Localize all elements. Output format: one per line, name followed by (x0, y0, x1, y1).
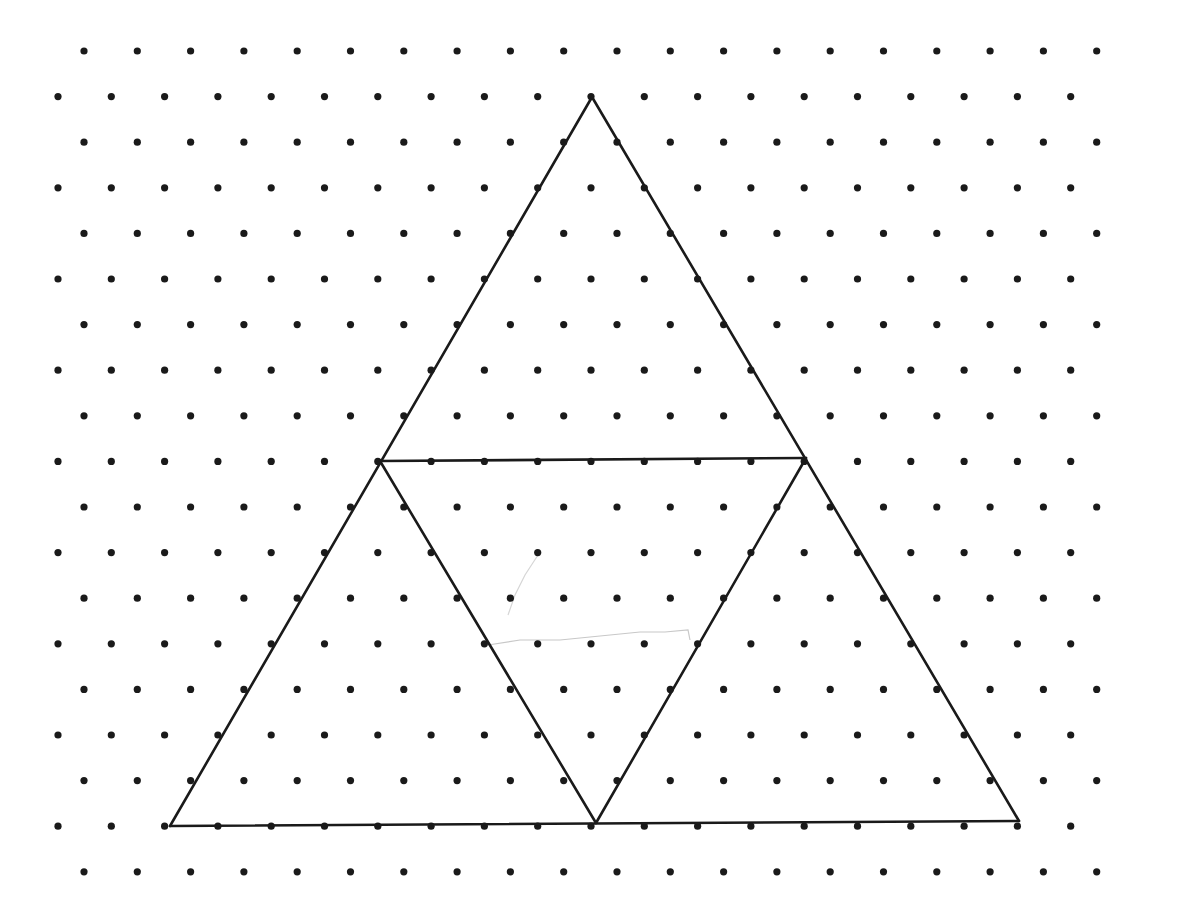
pencil-marks (488, 555, 690, 645)
grid-dot (134, 139, 141, 146)
grid-dot (454, 777, 461, 784)
grid-dot (374, 93, 381, 100)
grid-dot (54, 93, 61, 100)
grid-dot (613, 412, 620, 419)
grid-dot (907, 731, 914, 738)
grid-dot (961, 640, 968, 647)
grid-dot (587, 367, 594, 374)
grid-dot (961, 275, 968, 282)
grid-dot (268, 367, 275, 374)
grid-dot (54, 640, 61, 647)
grid-dot (720, 47, 727, 54)
grid-dot (1014, 367, 1021, 374)
grid-dot (933, 595, 940, 602)
grid-dot (108, 458, 115, 465)
grid-dot (747, 731, 754, 738)
grid-dot (428, 640, 435, 647)
grid-dot (854, 458, 861, 465)
triangle-edge-mid_left-mid_right (380, 458, 806, 461)
grid-dot (294, 868, 301, 875)
grid-dot (854, 93, 861, 100)
grid-dot (987, 412, 994, 419)
grid-dot (667, 139, 674, 146)
grid-dot (933, 503, 940, 510)
grid-dot (454, 868, 461, 875)
grid-dot (400, 686, 407, 693)
grid-dot (374, 640, 381, 647)
grid-dot (933, 868, 940, 875)
grid-dot (187, 47, 194, 54)
grid-dot (54, 823, 61, 830)
grid-dot (694, 93, 701, 100)
grid-dot (108, 93, 115, 100)
grid-dot (827, 139, 834, 146)
grid-dot (161, 731, 168, 738)
grid-dot (801, 184, 808, 191)
grid-dot (560, 412, 567, 419)
triangle-edge-mid_left-bottom_center (380, 461, 596, 823)
grid-dot (108, 731, 115, 738)
grid-dot (454, 230, 461, 237)
grid-dot (773, 686, 780, 693)
grid-dot (1040, 686, 1047, 693)
grid-dot (880, 230, 887, 237)
grid-dot (560, 777, 567, 784)
grid-dot (534, 549, 541, 556)
grid-dot (134, 230, 141, 237)
grid-dot (720, 139, 727, 146)
grid-dot (827, 412, 834, 419)
grid-dot (773, 595, 780, 602)
grid-dot (80, 412, 87, 419)
grid-dot (720, 686, 727, 693)
grid-dot (1040, 503, 1047, 510)
grid-dot (134, 47, 141, 54)
grid-dot (240, 230, 247, 237)
grid-dot (507, 777, 514, 784)
grid-dot (613, 686, 620, 693)
grid-dot (534, 93, 541, 100)
grid-dot (613, 47, 620, 54)
grid-dot (428, 184, 435, 191)
grid-dot (240, 595, 247, 602)
grid-dot (454, 503, 461, 510)
triangle-edge-mid_right-bottom_center (596, 458, 806, 823)
grid-dot (560, 47, 567, 54)
grid-dot (801, 367, 808, 374)
grid-dot (187, 230, 194, 237)
grid-dot (667, 595, 674, 602)
grid-dot (1093, 321, 1100, 328)
grid-dot (613, 503, 620, 510)
grid-dot (747, 275, 754, 282)
grid-dot (534, 367, 541, 374)
grid-dot (720, 503, 727, 510)
grid-dot (907, 549, 914, 556)
grid-dot (854, 731, 861, 738)
grid-dot (214, 184, 221, 191)
grid-dot (801, 549, 808, 556)
grid-dot (1014, 93, 1021, 100)
grid-dot (161, 823, 168, 830)
grid-dot (507, 595, 514, 602)
grid-dot (134, 595, 141, 602)
grid-dot (80, 868, 87, 875)
grid-dot (933, 412, 940, 419)
grid-dot (613, 230, 620, 237)
grid-dot (321, 275, 328, 282)
grid-dot (587, 549, 594, 556)
grid-dot (54, 731, 61, 738)
grid-dot (187, 686, 194, 693)
grid-dot (108, 275, 115, 282)
grid-dot (987, 230, 994, 237)
grid-dot (294, 139, 301, 146)
grid-dot (1014, 275, 1021, 282)
grid-dot (667, 47, 674, 54)
grid-dot (801, 275, 808, 282)
grid-dot (961, 458, 968, 465)
grid-dot (134, 503, 141, 510)
grid-dot (880, 139, 887, 146)
grid-dot (374, 367, 381, 374)
dot-grid-diagram (0, 0, 1192, 919)
grid-dot (454, 412, 461, 419)
grid-dot (347, 321, 354, 328)
grid-dot (268, 275, 275, 282)
